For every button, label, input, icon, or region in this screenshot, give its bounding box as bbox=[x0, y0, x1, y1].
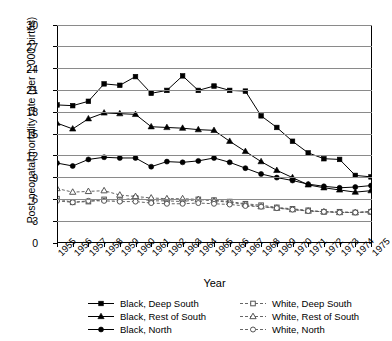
y-axis-tick-mark bbox=[53, 90, 57, 91]
gridline bbox=[57, 199, 372, 200]
y-axis-tick-label: 27 bbox=[10, 42, 38, 52]
y-axis-tick-label: 0 bbox=[10, 238, 38, 248]
data-point-filled-triangle bbox=[98, 313, 104, 319]
legend-item-label: White, North bbox=[272, 324, 325, 335]
legend-swatch-filled-square bbox=[86, 298, 116, 309]
data-point-open-square bbox=[251, 301, 256, 306]
legend-item[interactable]: Black, Deep South bbox=[86, 297, 231, 310]
y-axis-tick-label: 6 bbox=[10, 194, 38, 204]
y-axis-tick-mark bbox=[53, 68, 57, 69]
y-axis-tick-label: 12 bbox=[10, 151, 38, 161]
y-axis-tick-label: 15 bbox=[10, 129, 38, 139]
y-axis-tick-mark bbox=[53, 25, 57, 26]
legend-item-label: White, Rest of South bbox=[272, 311, 359, 322]
gridline bbox=[57, 90, 372, 91]
data-point-filled-circle bbox=[99, 327, 104, 332]
legend-item-label: Black, Deep South bbox=[120, 298, 199, 309]
legend-item[interactable]: Black, Rest of South bbox=[86, 310, 231, 323]
legend-item-label: Black, North bbox=[120, 324, 172, 335]
gridline bbox=[57, 134, 372, 135]
legend-swatch-open-circle bbox=[238, 324, 268, 335]
legend-item[interactable]: White, Deep South bbox=[238, 297, 383, 310]
y-axis-tick-label: 9 bbox=[10, 173, 38, 183]
data-point-open-triangle bbox=[250, 313, 256, 319]
legend-swatch-open-square bbox=[238, 298, 268, 309]
y-axis-tick-mark bbox=[53, 134, 57, 135]
x-axis-title: Year bbox=[57, 277, 372, 289]
legend-item[interactable]: Black, North bbox=[86, 323, 231, 336]
gridline bbox=[57, 221, 372, 222]
y-axis-tick-label: 24 bbox=[10, 64, 38, 74]
gridline bbox=[57, 46, 372, 47]
legend-column-right: White, Deep SouthWhite, Rest of SouthWhi… bbox=[238, 297, 383, 336]
legend-swatch-filled-triangle bbox=[86, 311, 116, 322]
chart-legend: Black, Deep SouthBlack, Rest of SouthBla… bbox=[86, 297, 376, 339]
y-axis-tick-mark bbox=[53, 221, 57, 222]
gridline bbox=[57, 68, 372, 69]
x-axis-tick-label: 1975 bbox=[370, 236, 392, 258]
y-axis-tick-label: 21 bbox=[10, 85, 38, 95]
gridline bbox=[57, 25, 372, 26]
legend-item-label: White, Deep South bbox=[272, 298, 352, 309]
y-axis-tick-mark bbox=[53, 199, 57, 200]
y-axis-tick-label: 30 bbox=[10, 20, 38, 30]
y-axis-tick-mark bbox=[53, 46, 57, 47]
legend-item[interactable]: White, Rest of South bbox=[238, 310, 383, 323]
legend-item[interactable]: White, North bbox=[238, 323, 383, 336]
y-axis-tick-label: 18 bbox=[10, 107, 38, 117]
gridline bbox=[57, 112, 372, 113]
legend-swatch-open-triangle bbox=[238, 311, 268, 322]
data-point-filled-square bbox=[99, 301, 104, 306]
y-axis-tick-mark bbox=[53, 177, 57, 178]
y-axis-tick-mark bbox=[53, 112, 57, 113]
plot-area: 036912151821242730 195519561957195819591… bbox=[57, 25, 372, 243]
gridline bbox=[57, 155, 372, 156]
legend-item-label: Black, Rest of South bbox=[120, 311, 206, 322]
gridline bbox=[57, 177, 372, 178]
data-point-open-circle bbox=[251, 327, 256, 332]
y-axis-tick-label: 3 bbox=[10, 216, 38, 226]
legend-swatch-filled-circle bbox=[86, 324, 116, 335]
legend-column-left: Black, Deep SouthBlack, Rest of SouthBla… bbox=[86, 297, 231, 336]
y-axis-tick-mark bbox=[53, 155, 57, 156]
